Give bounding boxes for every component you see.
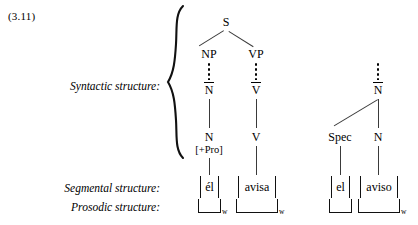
tree-node-v-bar: V bbox=[246, 84, 266, 96]
segmental-text-avisa: avisa bbox=[239, 181, 275, 193]
segmental-text-el-pronoun: él bbox=[201, 181, 218, 193]
segmental-bracket-el-determiner: el bbox=[331, 176, 350, 198]
prosodic-bracket-el-pronoun bbox=[198, 199, 221, 213]
prosodic-bracket-aviso bbox=[358, 199, 400, 213]
segmental-text-aviso: aviso bbox=[361, 181, 397, 193]
tree-node-v-bar-text: V bbox=[252, 84, 261, 96]
edge-s-np bbox=[199, 30, 224, 46]
tree-node-n-bar: N bbox=[199, 84, 219, 96]
edge-nbar-spec bbox=[334, 99, 378, 126]
edge-n-el bbox=[209, 158, 210, 175]
syntactic-structure-label: Syntactic structure: bbox=[0, 80, 160, 92]
segmental-bracket-aviso: aviso bbox=[360, 176, 398, 198]
prosodic-bracket-el-determiner bbox=[329, 199, 352, 213]
segmental-bracket-el-pronoun: él bbox=[200, 176, 219, 198]
tree-node-np: NP bbox=[196, 48, 222, 60]
segmental-bracket-avisa: avisa bbox=[238, 176, 276, 198]
tree-node-n-bar-right-text: N bbox=[374, 84, 383, 96]
prosodic-subscript-aviso: w bbox=[401, 208, 406, 216]
curly-brace-icon bbox=[165, 4, 187, 160]
segmental-text-el-determiner: el bbox=[332, 181, 349, 193]
prosodic-structure-label: Prosodic structure: bbox=[0, 201, 160, 213]
tree-node-vp: VP bbox=[243, 48, 269, 60]
edge-vp-vbar-dotted bbox=[255, 62, 257, 80]
figure-container: (3.11) Syntactic structure: Segmental st… bbox=[0, 0, 418, 225]
edge-np-nbar-dotted bbox=[208, 62, 210, 80]
segmental-structure-label: Segmental structure: bbox=[0, 182, 160, 194]
prosodic-bracket-avisa bbox=[236, 199, 278, 213]
example-number: (3.11) bbox=[8, 10, 35, 22]
edge-s-vp bbox=[228, 31, 253, 47]
tree-node-spec: Spec bbox=[322, 131, 358, 143]
tree-node-v: V bbox=[246, 131, 266, 143]
prosodic-subscript-el-pronoun: w bbox=[222, 208, 227, 216]
prosodic-subscript-avisa: w bbox=[279, 208, 284, 216]
edge-v-avisa bbox=[256, 146, 257, 175]
edge-nbar-n bbox=[209, 99, 210, 128]
tree-node-n-features: [+Pro] bbox=[184, 145, 234, 156]
edge-spec-el bbox=[340, 146, 341, 175]
edge-nbar-n-right bbox=[378, 99, 379, 128]
tree-node-n: N bbox=[199, 131, 219, 143]
edge-vbar-v bbox=[256, 99, 257, 128]
tree-node-n-bar-text: N bbox=[205, 84, 214, 96]
edge-n-aviso bbox=[378, 146, 379, 175]
tree-node-n-bar-right: N bbox=[368, 84, 388, 96]
tree-node-s: S bbox=[216, 16, 236, 28]
edge-above-nbar-dotted bbox=[377, 62, 379, 80]
tree-node-n-right: N bbox=[368, 131, 388, 143]
